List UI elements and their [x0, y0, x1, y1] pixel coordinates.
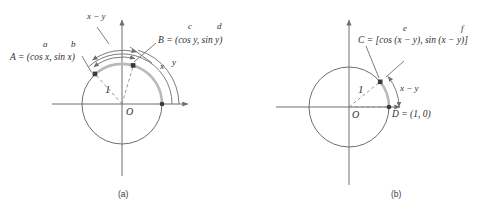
leader-A [82, 56, 92, 73]
label-point-B: B = (cos y, sin y) [158, 36, 222, 46]
highlighted-arc-DtoC [380, 82, 389, 107]
leader-xminusy [97, 27, 109, 44]
label-origin-a: O [126, 107, 133, 117]
panel-b-unit-circle-difference: e f C = [cos (x − y), sin (x − y)] x − y… [248, 0, 498, 212]
radius-to-B [122, 66, 133, 104]
figure-root: x − y a b A = (cos x, sin x) c d B = (co… [0, 0, 498, 212]
label-arc-x: x [160, 62, 164, 71]
point-B-marker [131, 63, 136, 68]
label-point-A: A = (cos x, sin x) [10, 53, 75, 63]
label-point-D: D = (1, 0) [392, 110, 431, 120]
label-term-d: d [217, 22, 222, 31]
label-origin-b: O [352, 110, 359, 120]
label-point-C: C = [cos (x − y), sin (x − y)] [358, 36, 468, 46]
label-term-a: a [43, 40, 48, 49]
point-C-marker [378, 80, 383, 85]
label-term-f: f [461, 24, 464, 33]
caption-panel-b: (b) [391, 190, 401, 199]
label-arc-difference-a: x − y [87, 12, 106, 21]
point-D-marker [387, 105, 392, 110]
label-term-e: e [403, 24, 407, 33]
leader-C [366, 46, 379, 78]
label-radius-b: 1 [358, 84, 364, 95]
radius-to-C [349, 82, 380, 107]
arc-indicator-outer [93, 50, 137, 60]
point-unit-marker [160, 102, 165, 107]
label-radius-a: 1 [105, 84, 111, 95]
panel-a-unit-circle-xy: x − y a b A = (cos x, sin x) c d B = (co… [0, 0, 250, 212]
panel-a-graphic [0, 0, 250, 212]
point-A-marker [93, 72, 98, 77]
label-arc-y: y [172, 58, 176, 67]
leader-arc [386, 61, 404, 77]
label-arc-difference-b: x − y [400, 84, 419, 93]
label-term-b: b [71, 40, 76, 49]
label-term-c: c [188, 22, 192, 31]
caption-panel-a: (a) [118, 190, 128, 199]
